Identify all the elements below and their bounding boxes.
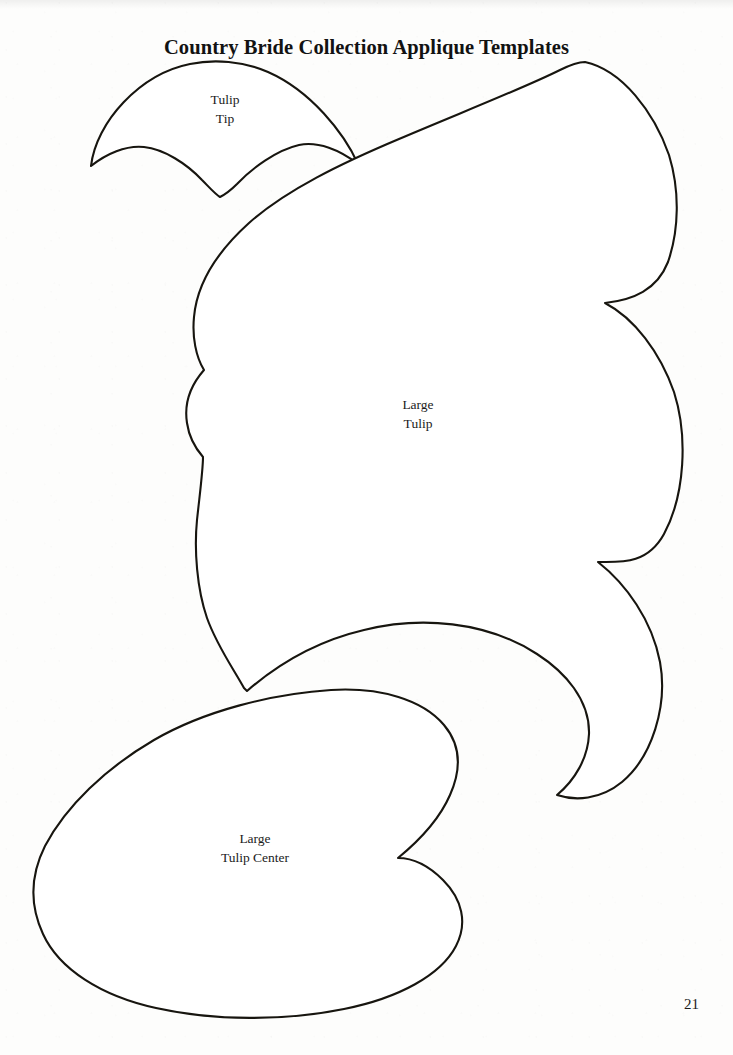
page-number: 21	[684, 996, 699, 1013]
applique-template-drawings	[0, 0, 733, 1055]
large-tulip-center-label: Large Tulip Center	[185, 830, 325, 867]
large-tulip-label: Large Tulip	[358, 396, 478, 433]
tulip-tip-label: Tulip Tip	[165, 91, 285, 128]
document-page: Country Bride Collection Applique Templa…	[0, 0, 733, 1055]
